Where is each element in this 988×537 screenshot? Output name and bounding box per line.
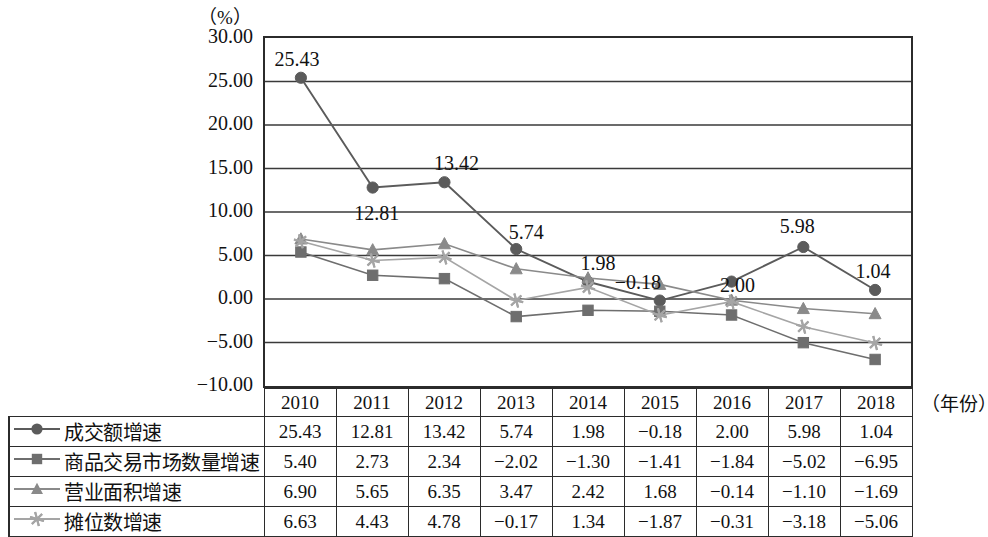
table-cell: 1.98 [552,417,624,447]
table-cell: −0.18 [624,417,696,447]
table-cell: 4.43 [336,507,408,537]
table-row: 商品交易市场数量增速5.402.732.34−2.02−1.30−1.41−1.… [9,447,912,477]
y-axis-tick-15: 15.00 [120,156,253,179]
table-cell: 1.04 [840,417,912,447]
y-axis-tick-0: 0.00 [120,286,253,309]
x-axis-unit-label: （年份） [921,389,988,416]
table-cell: 1.34 [552,507,624,537]
legend-label: 商品交易市场数量增速 [64,447,259,476]
data-label-2012: 13.42 [434,152,479,175]
table-header-row: 201020112012201320142015201620172018 [9,389,912,417]
square-marker-icon [14,448,60,475]
table-cell: −0.14 [696,477,768,507]
table-cell: −1.69 [840,477,912,507]
table-cell: −6.95 [840,447,912,477]
table-cell: −5.06 [840,507,912,537]
data-label-2015: −0.18 [615,271,661,294]
table-cell: 13.42 [408,417,480,447]
y-axis-tick-25: 25.00 [120,69,253,92]
legend-cell-3: 摊位数增速 [9,507,264,537]
table-cell: −0.31 [696,507,768,537]
data-label-2010: 25.43 [274,48,319,71]
y-axis-tick-5: 5.00 [120,243,253,266]
table-cell: −1.30 [552,447,624,477]
legend-label: 营业面积增速 [64,477,181,506]
table-cell: 5.74 [480,417,552,447]
table-header-year-2014: 2014 [552,389,624,417]
data-label-2016: 2.00 [720,274,755,297]
table-cell: 2.34 [408,447,480,477]
table-header-year-2017: 2017 [768,389,840,417]
legend-label: 成交额增速 [64,417,162,446]
table-cell: 5.65 [336,477,408,507]
table-cell: 6.90 [264,477,336,507]
table-cell: 3.47 [480,477,552,507]
table-cell: 6.63 [264,507,336,537]
table-cell: 5.98 [768,417,840,447]
table-body: 成交额增速25.4312.8113.425.741.98−0.182.005.9… [9,417,912,537]
table-cell: 6.35 [408,477,480,507]
y-axis-tick-30: 30.00 [120,25,253,48]
table-header-year-2010: 2010 [264,389,336,417]
legend-label: 摊位数增速 [64,507,162,536]
data-label-2018: 1.04 [856,260,891,283]
circle-marker-icon [14,418,60,445]
table-cell: 12.81 [336,417,408,447]
table-cell: 2.42 [552,477,624,507]
table-cell: −2.02 [480,447,552,477]
y-axis-tick-neg5: −5.00 [120,330,253,353]
table-cell: 4.78 [408,507,480,537]
data-label-2011: 12.81 [354,202,399,225]
table-cell: −1.41 [624,447,696,477]
y-axis-tick-20: 20.00 [120,112,253,135]
legend-cell-0: 成交额增速 [9,417,264,447]
table-corner-cell [9,389,264,417]
legend-cell-1: 商品交易市场数量增速 [9,447,264,477]
table-cell: −3.18 [768,507,840,537]
data-label-2013: 5.74 [509,221,544,244]
table-header-year-2012: 2012 [408,389,480,417]
y-axis-tick-10: 10.00 [120,199,253,222]
table-cell: −1.84 [696,447,768,477]
table-header-year-2016: 2016 [696,389,768,417]
table-head: 201020112012201320142015201620172018 [9,389,912,417]
table-row: 成交额增速25.4312.8113.425.741.98−0.182.005.9… [9,417,912,447]
data-label-2014: 1.98 [581,252,616,275]
table-cell: 2.00 [696,417,768,447]
table-cell: 1.68 [624,477,696,507]
table-cell: −1.87 [624,507,696,537]
table-header-year-2011: 2011 [336,389,408,417]
legend-cell-2: 营业面积增速 [9,477,264,507]
table-header-year-2013: 2013 [480,389,552,417]
table-header-year-2018: 2018 [840,389,912,417]
table-cell: −0.17 [480,507,552,537]
table-cell: −5.02 [768,447,840,477]
table-cell: 5.40 [264,447,336,477]
triangle-marker-icon [14,478,60,505]
table-cell: −1.10 [768,477,840,507]
asterisk-marker-icon [14,508,60,535]
data-label-2017: 5.98 [780,215,815,238]
table-cell: 2.73 [336,447,408,477]
data-table: 201020112012201320142015201620172018 成交额… [8,388,913,537]
table-header-year-2015: 2015 [624,389,696,417]
table-row: 摊位数增速6.634.434.78−0.171.34−1.87−0.31−3.1… [9,507,912,537]
table-cell: 25.43 [264,417,336,447]
table-row: 营业面积增速6.905.656.353.472.421.68−0.14−1.10… [9,477,912,507]
